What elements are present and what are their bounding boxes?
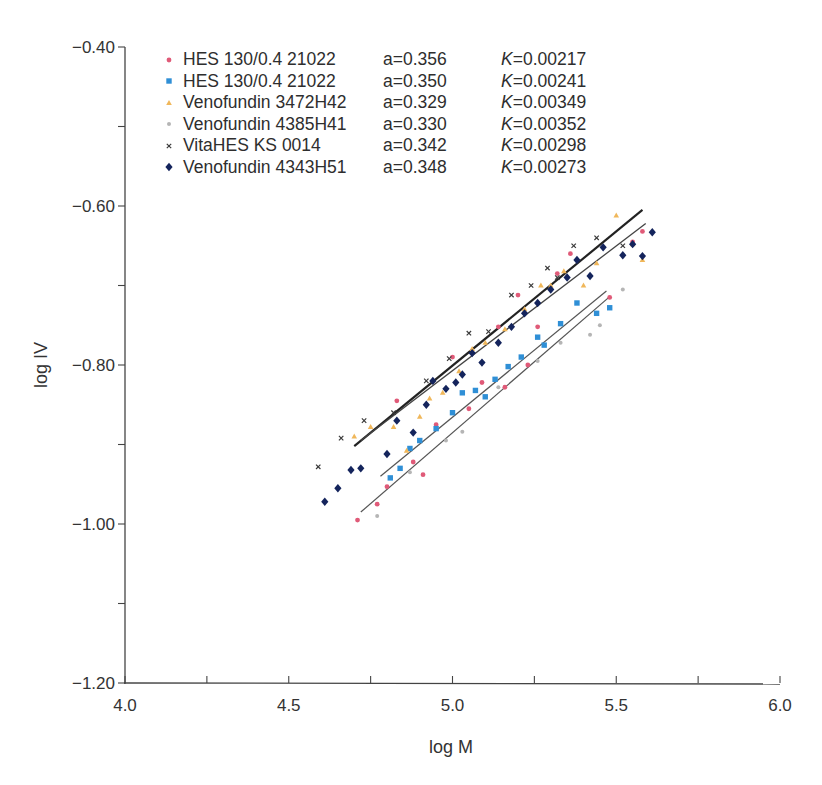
legend-k-value: K=0.00298 bbox=[501, 135, 586, 157]
data-point bbox=[640, 229, 645, 234]
upper-fit-2-line bbox=[361, 223, 646, 440]
legend-k-value: K=0.00241 bbox=[501, 71, 586, 93]
y-tick-label: −0.40 bbox=[72, 38, 115, 57]
data-point bbox=[561, 268, 567, 273]
data-point bbox=[339, 436, 343, 440]
legend-a-value: a=0.356 bbox=[383, 49, 501, 71]
data-point bbox=[450, 410, 455, 415]
data-point bbox=[588, 333, 592, 337]
series-6 bbox=[321, 228, 656, 506]
data-point bbox=[503, 385, 508, 390]
data-point bbox=[394, 398, 399, 403]
lower-fit-1-line bbox=[380, 291, 606, 476]
data-point bbox=[486, 329, 490, 333]
data-point bbox=[542, 342, 547, 347]
square-marker-icon bbox=[162, 71, 176, 92]
legend-a-value: a=0.329 bbox=[383, 92, 501, 114]
data-point bbox=[427, 395, 433, 400]
data-points bbox=[316, 213, 656, 523]
data-point bbox=[571, 244, 575, 248]
legend-item: HES 130/0.4 21022a=0.350K=0.00241 bbox=[162, 71, 586, 93]
data-point bbox=[535, 324, 540, 329]
data-point bbox=[417, 414, 423, 419]
data-point bbox=[594, 236, 598, 240]
data-point bbox=[574, 300, 579, 305]
data-point bbox=[558, 321, 563, 326]
data-point bbox=[607, 305, 612, 310]
data-point bbox=[545, 266, 549, 270]
data-point bbox=[509, 293, 513, 297]
data-point bbox=[536, 359, 540, 363]
data-point bbox=[423, 401, 430, 409]
legend-series-name: HES 130/0.4 21022 bbox=[183, 49, 383, 71]
legend-item: VitaHES KS 0014a=0.342K=0.00298 bbox=[162, 135, 586, 157]
data-point bbox=[388, 475, 393, 480]
y-axis-title: log IV bbox=[31, 342, 51, 388]
series-1 bbox=[355, 229, 645, 522]
y-tick-label: −0.60 bbox=[72, 197, 115, 216]
data-point bbox=[355, 518, 360, 523]
data-point bbox=[495, 339, 502, 347]
x-axis-line bbox=[124, 683, 780, 684]
data-point bbox=[473, 388, 478, 393]
data-point bbox=[492, 377, 497, 382]
legend-item: Venofundin 3472H42a=0.329K=0.00349 bbox=[162, 92, 586, 114]
legend-k-value: K=0.00273 bbox=[501, 157, 586, 179]
data-point bbox=[629, 240, 636, 248]
legend-a-value: a=0.342 bbox=[383, 135, 501, 157]
legend-marker-glyph bbox=[166, 100, 172, 105]
data-point bbox=[410, 428, 417, 436]
legend-marker-glyph bbox=[166, 79, 171, 84]
data-point bbox=[496, 324, 501, 329]
series-4 bbox=[375, 287, 625, 518]
data-point bbox=[385, 484, 390, 489]
data-point bbox=[393, 416, 400, 424]
legend-k-value: K=0.00217 bbox=[501, 49, 586, 71]
legend-series-name: Venofundin 4385H41 bbox=[183, 114, 383, 136]
data-point bbox=[621, 287, 625, 291]
data-point bbox=[535, 334, 540, 339]
data-point bbox=[391, 424, 397, 429]
data-point bbox=[397, 466, 402, 471]
legend-item: HES 130/0.4 21022a=0.356K=0.00217 bbox=[162, 49, 586, 71]
data-point bbox=[357, 464, 364, 472]
x-tick-label: 5.0 bbox=[441, 696, 465, 715]
data-point bbox=[573, 256, 580, 264]
legend-series-name: HES 130/0.4 21022 bbox=[183, 71, 383, 93]
data-point bbox=[521, 309, 528, 317]
x-marker-icon bbox=[162, 135, 176, 156]
x-tick-label: 6.0 bbox=[768, 696, 792, 715]
legend-a-value: a=0.348 bbox=[383, 157, 501, 179]
data-point bbox=[334, 484, 341, 492]
data-point bbox=[411, 460, 416, 465]
data-point bbox=[375, 514, 379, 518]
data-point bbox=[559, 341, 563, 345]
legend-marker-glyph bbox=[167, 57, 172, 62]
data-point bbox=[424, 379, 428, 383]
data-point bbox=[478, 358, 485, 366]
data-point bbox=[467, 331, 471, 335]
x-tick-label: 4.5 bbox=[277, 696, 301, 715]
data-point bbox=[460, 430, 464, 434]
data-point bbox=[375, 502, 380, 507]
data-point bbox=[321, 498, 328, 506]
data-point bbox=[607, 295, 612, 300]
data-point bbox=[444, 439, 448, 443]
data-point bbox=[408, 470, 412, 474]
diamond-marker-icon bbox=[162, 157, 176, 178]
data-point bbox=[469, 349, 476, 357]
data-point bbox=[496, 385, 500, 389]
x-axis-title: log M bbox=[429, 737, 473, 757]
legend-k-value: K=0.00352 bbox=[501, 114, 586, 136]
y-tick-label: −1.00 bbox=[72, 515, 115, 534]
lower-fit-2-line bbox=[361, 297, 610, 512]
data-point bbox=[362, 418, 366, 422]
legend: HES 130/0.4 21022a=0.356K=0.00217HES 130… bbox=[162, 49, 586, 178]
data-point bbox=[586, 272, 593, 280]
data-point bbox=[581, 283, 587, 288]
data-point bbox=[452, 378, 459, 386]
data-point bbox=[483, 394, 488, 399]
data-point bbox=[529, 283, 533, 287]
y-tick-label: −1.20 bbox=[72, 674, 115, 693]
legend-marker-glyph bbox=[167, 122, 171, 126]
